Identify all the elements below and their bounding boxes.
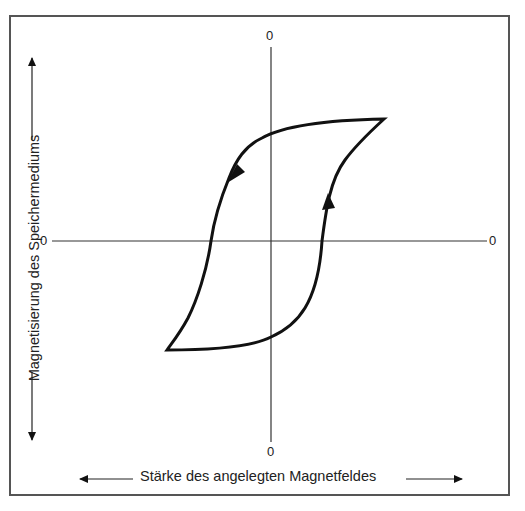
y-axis-top-zero: 0: [266, 28, 273, 43]
x-axis-right-zero: 0: [489, 233, 496, 248]
y-axis-bottom-zero: 0: [267, 444, 274, 459]
x-axis-label: Stärke des angelegten Magnetfeldes: [140, 468, 376, 484]
hysteresis-curve: [167, 119, 384, 350]
diagram-canvas: [0, 0, 525, 511]
curve-arrow-up-icon: [322, 193, 335, 210]
y-axis-label: Magnetisierung des Speichermediums: [26, 135, 42, 382]
hysteresis-diagram: 0 0 0 0 Stärke des angelegten Magnetfeld…: [0, 0, 525, 511]
